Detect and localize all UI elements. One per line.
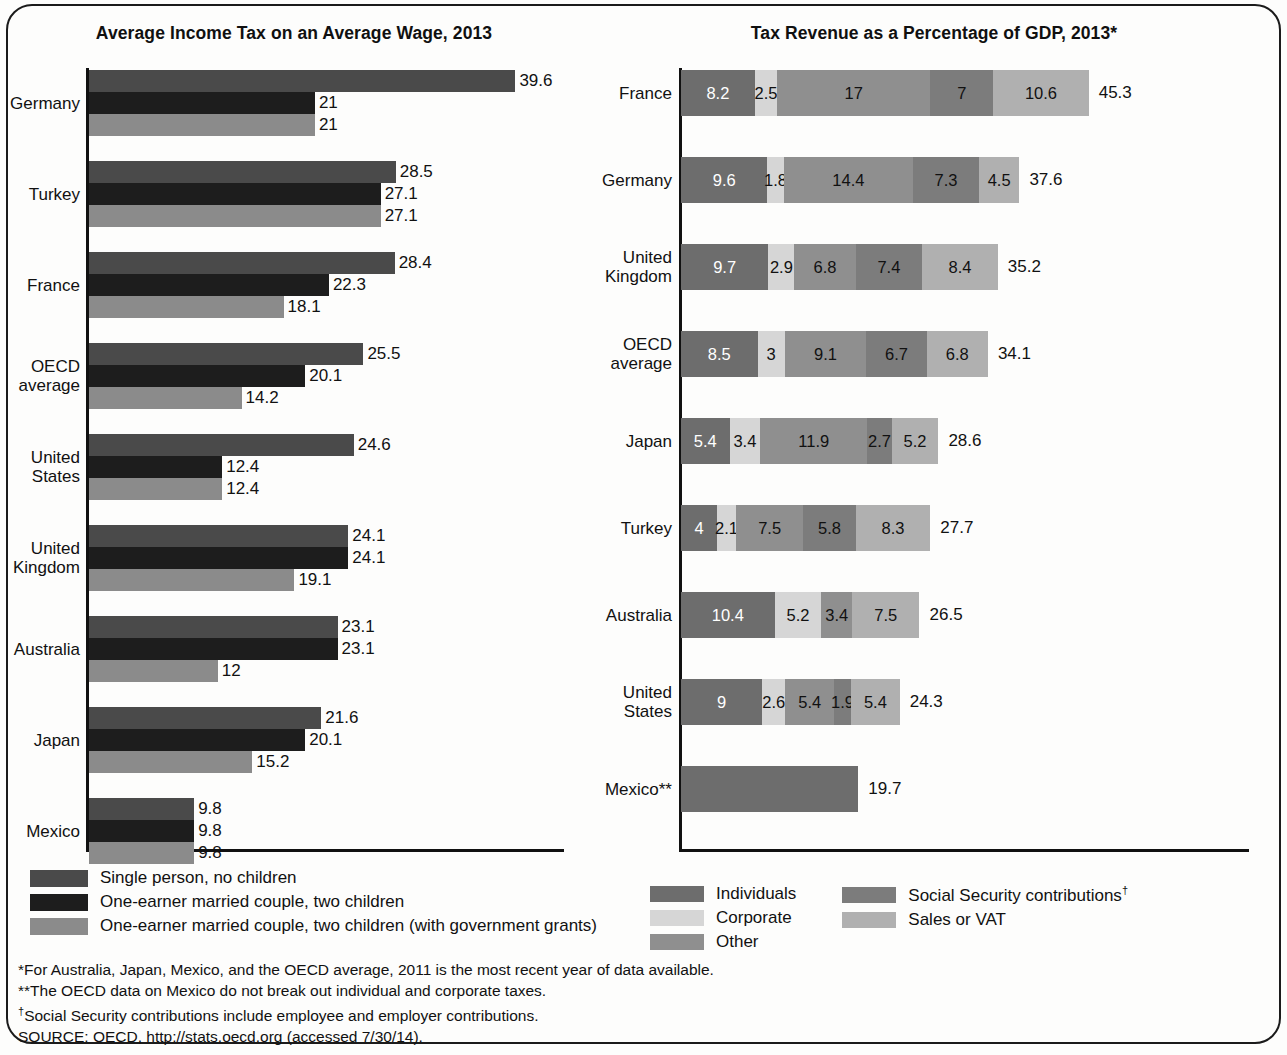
stacked-segment: 3.4: [821, 592, 852, 638]
stacked-bar-row: UnitedStates92.65.41.95.424.3: [600, 679, 1287, 725]
right-chart-legend: IndividualsCorporateOther Social Securit…: [650, 884, 1128, 956]
stacked-segment: 3: [758, 331, 785, 377]
stacked-bar-row: UnitedKingdom9.72.96.87.48.435.2: [600, 244, 1287, 290]
bar-fill: [89, 183, 381, 205]
stacked-segment: 8.5: [681, 331, 758, 377]
stacked-category-label: Japan: [600, 432, 672, 451]
legend-label-text: Corporate: [716, 908, 792, 927]
stacked-category-label-line: Australia: [600, 606, 672, 625]
grouped-category-label-line: United: [0, 539, 80, 558]
stacked-category-label: Mexico**: [600, 780, 672, 799]
stacked-segment: 2.7: [867, 418, 891, 464]
stacked-category-label-line: France: [600, 84, 672, 103]
stacked-category-label-line: Japan: [600, 432, 672, 451]
legend-item: One-earner married couple, two children …: [30, 916, 597, 936]
stacked-total-label: 35.2: [1008, 257, 1041, 277]
bar-fill: [89, 569, 295, 591]
stacked-bar-row: Mexico**19.7: [600, 766, 1287, 812]
grouped-category-label: France: [0, 276, 80, 295]
footnote-text: For Australia, Japan, Mexico, and the OE…: [24, 961, 714, 978]
stacked-segment: 2.6: [762, 679, 785, 725]
bar-value-label: 22.3: [329, 275, 366, 295]
left-chart-legend: Single person, no childrenOne-earner mar…: [30, 868, 597, 940]
grouped-category-label-line: United: [0, 448, 80, 467]
bar-fill: [89, 343, 364, 365]
bar-value-label: 14.2: [242, 388, 279, 408]
footnote: SOURCE: OECD, http://stats.oecd.org (acc…: [18, 1027, 1218, 1048]
stacked-segment: 9: [681, 679, 762, 725]
stacked-segment: 10.4: [681, 592, 775, 638]
bar-fill: [89, 547, 349, 569]
stacked-segment: 7: [930, 70, 993, 116]
stacked-bar: 42.17.55.88.3: [681, 505, 930, 551]
bar-fill: [89, 92, 315, 114]
grouped-category-label-line: Turkey: [0, 185, 80, 204]
stacked-category-label-line: United: [600, 248, 672, 267]
footnote: **The OECD data on Mexico do not break o…: [18, 981, 1218, 1002]
bar-fill: [89, 161, 396, 183]
grouped-bar-plot: Germany39.62121Turkey28.527.127.1France2…: [0, 68, 600, 848]
stacked-category-label: Australia: [600, 606, 672, 625]
legend-swatch: [30, 894, 88, 911]
legend-label-text: Social Security contributions: [908, 886, 1122, 905]
stacked-bar: 9.72.96.87.48.4: [681, 244, 998, 290]
stacked-category-label: OECDaverage: [600, 335, 672, 373]
grouped-bar-group: Japan21.620.115.2: [0, 707, 600, 773]
right-legend-column-1: IndividualsCorporateOther: [650, 884, 796, 956]
footnote: †Social Security contributions include e…: [18, 1001, 1218, 1027]
grouped-category-label-line: Kingdom: [0, 558, 80, 577]
grouped-bar-group: UnitedStates24.612.412.4: [0, 434, 600, 500]
stacked-bar-row: Turkey42.17.55.88.327.7: [600, 505, 1287, 551]
legend-swatch: [650, 886, 704, 902]
legend-swatch: [650, 934, 704, 950]
stacked-bar: [681, 766, 858, 812]
stacked-category-label-line: Turkey: [600, 519, 672, 538]
legend-label-text: Individuals: [716, 884, 796, 903]
bar-value-label: 20.1: [305, 366, 342, 386]
legend-label: Individuals: [716, 884, 796, 904]
stacked-segment: 6.8: [794, 244, 855, 290]
bar-fill: [89, 616, 338, 638]
stacked-category-label-line: OECD: [600, 335, 672, 354]
grouped-category-label-line: OECD: [0, 357, 80, 376]
stacked-segment: 1.9: [834, 679, 851, 725]
grouped-category-label: OECDaverage: [0, 357, 80, 395]
footnote-text: SOURCE: OECD, http://stats.oecd.org (acc…: [18, 1028, 423, 1045]
bar-value-label: 24.1: [348, 526, 385, 546]
stacked-bar-row: Australia10.45.23.47.526.5: [600, 592, 1287, 638]
legend-label: Single person, no children: [100, 868, 297, 888]
stacked-bar: 10.45.23.47.5: [681, 592, 919, 638]
legend-item: Social Security contributions†: [842, 884, 1128, 906]
bar-fill: [89, 252, 395, 274]
stacked-segment: 14.4: [784, 157, 914, 203]
stacked-bar: 8.539.16.76.8: [681, 331, 988, 377]
stacked-category-label-line: average: [600, 354, 672, 373]
bar-value-label: 15.2: [252, 752, 289, 772]
bar-value-label: 39.6: [515, 71, 552, 91]
bar-fill: [89, 707, 322, 729]
bar-value-label: 20.1: [305, 730, 342, 750]
bar-fill: [89, 434, 354, 456]
grouped-bar-group: Mexico9.89.89.8: [0, 798, 600, 864]
grouped-category-label-line: Japan: [0, 731, 80, 750]
bar-value-label: 12.4: [222, 457, 259, 477]
legend-label: One-earner married couple, two children …: [100, 916, 597, 936]
stacked-segment: 6.7: [866, 331, 926, 377]
legend-swatch: [650, 910, 704, 926]
stacked-category-label: Germany: [600, 171, 672, 190]
stacked-bar: 92.65.41.95.4: [681, 679, 900, 725]
bar-value-label: 9.8: [194, 799, 222, 819]
bar-fill: [89, 478, 223, 500]
stacked-segment: 6.8: [927, 331, 988, 377]
grouped-bar-group: Germany39.62121: [0, 70, 600, 136]
stacked-segment: 7.4: [856, 244, 923, 290]
stacked-segment: 11.9: [760, 418, 867, 464]
stacked-total-label: 24.3: [910, 692, 943, 712]
grouped-bar-group: Turkey28.527.127.1: [0, 161, 600, 227]
bar-value-label: 28.5: [396, 162, 433, 182]
stacked-bar: 9.61.814.47.34.5: [681, 157, 1019, 203]
bar-fill: [89, 205, 381, 227]
grouped-category-label-line: Germany: [0, 94, 80, 113]
stacked-bar: 5.43.411.92.75.2: [681, 418, 938, 464]
right-x-axis: [679, 849, 1249, 852]
